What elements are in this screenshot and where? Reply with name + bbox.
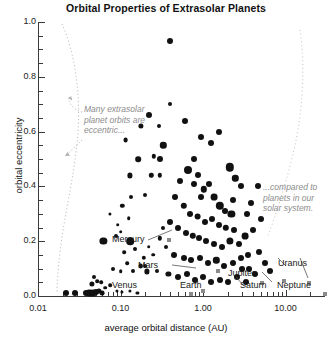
data-point — [72, 290, 78, 296]
data-point — [164, 245, 168, 249]
y-tick — [38, 49, 43, 50]
data-point — [245, 252, 251, 258]
data-point — [172, 194, 178, 200]
data-point — [203, 238, 209, 244]
data-point — [187, 211, 193, 217]
data-point — [210, 194, 217, 201]
y-tick — [38, 228, 43, 229]
data-point — [208, 140, 214, 146]
data-point — [161, 226, 165, 230]
data-point — [231, 227, 237, 233]
y-tick — [38, 214, 43, 215]
eccentric-envelope-curve — [57, 24, 79, 294]
y-axis-title: orbital eccentricity — [13, 91, 24, 221]
data-point — [152, 253, 156, 257]
y-tick — [38, 63, 43, 64]
y-tick — [38, 269, 43, 270]
data-point — [188, 257, 194, 263]
data-point — [100, 291, 105, 296]
x-tick — [178, 292, 179, 296]
x-tick — [108, 292, 109, 296]
x-tick — [145, 292, 146, 296]
data-point — [63, 290, 69, 296]
y-tick — [38, 104, 43, 105]
planet-label-neptune: Neptune — [277, 280, 311, 290]
x-tick — [267, 292, 268, 296]
data-point — [147, 245, 151, 249]
x-tick — [160, 292, 161, 296]
data-point — [127, 173, 132, 178]
data-point — [158, 173, 162, 177]
data-point — [191, 156, 197, 162]
x-tick — [38, 290, 39, 296]
data-point — [226, 238, 233, 245]
data-point — [119, 230, 123, 234]
data-point — [216, 222, 222, 228]
solar-planet-marker-venus — [189, 292, 193, 296]
x-tick-label: 1.00 — [194, 303, 212, 313]
data-point — [111, 267, 115, 271]
data-point — [244, 211, 250, 217]
x-axis-spine — [38, 296, 325, 297]
x-tick — [117, 292, 118, 296]
solar-planet-marker-mars — [216, 269, 220, 273]
data-point — [160, 142, 166, 148]
data-point — [230, 260, 236, 266]
data-point — [116, 223, 120, 227]
planet-label-uranus: Uranus — [278, 258, 307, 268]
solar-planet-marker-mercury — [167, 238, 171, 242]
data-point — [125, 261, 129, 265]
data-point — [223, 224, 229, 230]
planet-label-mars: Mars — [138, 260, 158, 270]
data-point — [175, 274, 181, 280]
chart-title: Orbital Properties of Extrasolar Planets — [0, 2, 332, 14]
data-point — [198, 134, 204, 140]
data-point — [109, 212, 112, 215]
x-tick — [170, 292, 171, 296]
data-point — [208, 279, 214, 285]
x-tick — [185, 292, 186, 296]
data-point — [136, 156, 142, 162]
y-tick — [38, 282, 43, 283]
solar-planet-marker-earth — [201, 289, 205, 293]
x-tick — [242, 292, 243, 296]
data-point — [133, 247, 137, 251]
data-point — [123, 137, 128, 142]
data-point — [190, 233, 196, 239]
data-point — [211, 241, 217, 247]
data-point — [230, 197, 236, 203]
data-point — [262, 260, 268, 266]
x-tick — [273, 292, 274, 296]
y-tick — [38, 296, 45, 297]
solar-planet-marker-neptune — [323, 292, 327, 296]
y-tick-label: 0.0 — [2, 290, 36, 300]
data-point — [256, 249, 262, 255]
y-tick — [38, 241, 45, 242]
annotation-solar-comparison: ...compared to planets in our solar syst… — [263, 182, 327, 214]
data-point — [250, 227, 256, 233]
data-point — [167, 219, 173, 225]
planet-label-earth: Earth — [180, 280, 202, 290]
x-tick — [113, 292, 114, 296]
data-point — [202, 219, 208, 225]
data-point — [89, 281, 94, 286]
x-tick — [286, 290, 287, 296]
x-tick — [253, 292, 254, 296]
x-tick — [195, 292, 196, 296]
data-point — [136, 292, 139, 295]
x-tick — [228, 292, 229, 296]
x-tick-label: 0.01 — [29, 303, 47, 313]
data-point — [241, 232, 248, 239]
data-point — [177, 178, 183, 184]
data-point — [191, 181, 197, 187]
planet-label-mercury: Mercury — [112, 234, 145, 244]
data-point — [209, 216, 215, 222]
data-point — [201, 186, 207, 192]
data-point — [158, 236, 162, 240]
y-tick — [38, 22, 45, 23]
y-tick-label: 1.0 — [2, 16, 36, 26]
data-point — [219, 244, 225, 250]
y-tick — [38, 91, 43, 92]
data-point — [99, 281, 103, 285]
data-point — [143, 193, 147, 197]
